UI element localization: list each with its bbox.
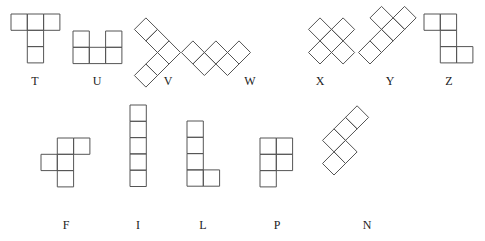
pentomino-V	[134, 18, 180, 87]
pentomino-F	[41, 138, 90, 187]
cell	[57, 154, 73, 170]
pentomino-U	[73, 31, 122, 64]
cell	[27, 14, 43, 30]
cell	[370, 29, 393, 52]
cell	[320, 29, 343, 52]
label-X: X	[316, 74, 325, 89]
cell	[323, 152, 346, 175]
cell	[106, 47, 122, 63]
pentomino-Y	[359, 6, 417, 64]
cell	[370, 6, 393, 29]
cell	[260, 154, 276, 170]
cell	[334, 117, 357, 140]
label-P: P	[274, 218, 281, 233]
cell	[440, 14, 456, 30]
cell	[323, 129, 346, 152]
pentomino-P	[260, 138, 293, 187]
cell	[260, 138, 276, 154]
cell	[382, 18, 405, 41]
cell	[130, 105, 146, 121]
label-V: V	[164, 74, 173, 89]
cell	[130, 154, 146, 170]
cell	[309, 41, 332, 64]
cell	[260, 171, 276, 187]
cell	[334, 140, 357, 163]
cell	[204, 41, 227, 64]
cell	[187, 121, 203, 137]
pentomino-L	[187, 121, 220, 186]
label-I: I	[136, 218, 140, 233]
cell	[73, 31, 89, 47]
cell	[440, 30, 456, 46]
cell	[146, 53, 169, 76]
cell	[309, 18, 332, 41]
cell	[130, 121, 146, 137]
cell	[440, 47, 456, 63]
cell	[146, 29, 169, 52]
label-N: N	[363, 218, 372, 233]
label-U: U	[93, 74, 102, 89]
cell	[424, 14, 440, 30]
cell	[332, 41, 355, 64]
cell	[181, 41, 204, 64]
pentomino-diagram	[0, 0, 485, 241]
cell	[130, 170, 146, 186]
cell	[57, 138, 73, 154]
cell	[203, 170, 219, 186]
cell	[216, 53, 239, 76]
cell	[158, 41, 181, 64]
cell	[187, 170, 203, 186]
cell	[11, 14, 27, 30]
cell	[73, 47, 89, 63]
cell	[187, 137, 203, 153]
pentomino-N	[323, 106, 369, 175]
label-T: T	[31, 74, 38, 89]
label-F: F	[63, 218, 70, 233]
cell	[359, 41, 382, 64]
pentomino-I	[130, 105, 146, 187]
cell	[134, 18, 157, 41]
cell	[457, 47, 473, 63]
cell	[74, 138, 90, 154]
pentomino-T	[11, 14, 60, 63]
label-Y: Y	[386, 74, 395, 89]
pentomino-Z	[424, 14, 473, 63]
cell	[228, 41, 251, 64]
cell	[193, 53, 216, 76]
label-W: W	[244, 74, 255, 89]
cell	[346, 106, 369, 129]
cell	[41, 154, 57, 170]
cell	[134, 64, 157, 87]
cell	[393, 6, 416, 29]
pentomino-X	[309, 18, 355, 64]
pentomino-W	[181, 41, 250, 76]
cell	[44, 14, 60, 30]
cell	[57, 171, 73, 187]
cell	[332, 18, 355, 41]
cell	[27, 47, 43, 63]
label-Z: Z	[445, 74, 452, 89]
cell	[187, 154, 203, 170]
cell	[89, 47, 105, 63]
cell	[27, 30, 43, 46]
label-L: L	[199, 218, 206, 233]
cell	[130, 138, 146, 154]
cell	[106, 31, 122, 47]
cell	[276, 154, 292, 170]
cell	[276, 138, 292, 154]
